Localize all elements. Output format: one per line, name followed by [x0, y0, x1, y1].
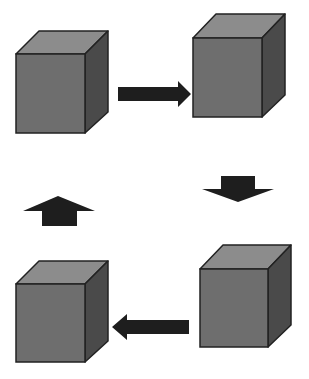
cube-top-right — [193, 14, 285, 117]
cube-top-left — [16, 31, 108, 133]
arrow-down-icon — [202, 176, 274, 202]
cube-front-face — [16, 284, 85, 362]
cube-front-face — [16, 54, 85, 133]
arrow-left-icon — [112, 314, 189, 340]
cube-bottom-left — [16, 261, 108, 362]
cube-front-face — [200, 269, 268, 347]
cycle-diagram — [0, 0, 309, 379]
cube-front-face — [193, 38, 262, 117]
arrow-right-icon — [118, 81, 191, 107]
cube-bottom-right — [200, 245, 291, 347]
arrow-up-icon — [23, 196, 95, 226]
